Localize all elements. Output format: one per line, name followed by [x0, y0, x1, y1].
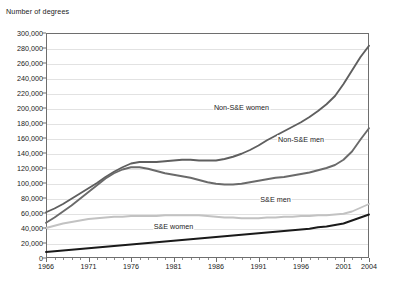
y-tick-label: 160,000	[17, 134, 43, 143]
x-tick-mark-minor	[165, 258, 166, 260]
y-tick-mark	[42, 228, 46, 229]
x-tick-mark-minor	[208, 258, 209, 260]
x-tick-label: 1971	[81, 262, 97, 271]
x-tick-label: 1966	[38, 262, 54, 271]
series-line-s-e-men	[46, 204, 369, 228]
x-tick-mark-minor	[199, 258, 200, 260]
x-tick-mark-minor	[267, 258, 268, 260]
y-tick-label: 260,000	[17, 59, 43, 68]
y-tick-label: 200,000	[17, 104, 43, 113]
x-tick-mark-minor	[55, 258, 56, 260]
y-tick-mark	[42, 243, 46, 244]
y-tick-label: 300,000	[17, 29, 43, 38]
x-tick-mark-minor	[250, 258, 251, 260]
x-tick-mark-minor	[352, 258, 353, 260]
x-tick-label: 1981	[166, 262, 182, 271]
x-tick-label: 1991	[251, 262, 267, 271]
y-tick-label: 80,000	[21, 194, 43, 203]
y-tick-mark	[42, 153, 46, 154]
series-label-s-e-men: S&E men	[259, 195, 291, 204]
x-tick-mark-minor	[335, 258, 336, 260]
x-tick-mark-minor	[225, 258, 226, 260]
x-tick-mark-minor	[114, 258, 115, 260]
series-line-s-e-women	[46, 215, 369, 253]
y-tick-label: 120,000	[17, 164, 43, 173]
y-tick-mark	[42, 93, 46, 94]
y-tick-label: 100,000	[17, 179, 43, 188]
x-tick-mark-minor	[191, 258, 192, 260]
x-tick-mark-minor	[80, 258, 81, 260]
x-tick-label: 1976	[123, 262, 139, 271]
y-tick-mark	[42, 123, 46, 124]
y-tick-label: 180,000	[17, 119, 43, 128]
degrees-line-chart: Number of degrees 300,000280,000260,0002…	[0, 0, 415, 284]
y-tick-label: 60,000	[21, 209, 43, 218]
x-tick-label: 1986	[208, 262, 224, 271]
series-label-s-e-women: S&E women	[153, 222, 195, 231]
x-tick-mark-minor	[233, 258, 234, 260]
x-tick-mark-minor	[140, 258, 141, 260]
y-tick-mark	[42, 48, 46, 49]
x-tick-mark-minor	[97, 258, 98, 260]
y-tick-mark	[42, 138, 46, 139]
series-layer	[46, 33, 369, 258]
x-tick-mark-minor	[284, 258, 285, 260]
x-tick-mark-minor	[123, 258, 124, 260]
x-tick-mark-minor	[318, 258, 319, 260]
y-tick-mark	[42, 183, 46, 184]
x-tick-mark-minor	[106, 258, 107, 260]
x-tick-mark-minor	[148, 258, 149, 260]
x-tick-mark-minor	[157, 258, 158, 260]
x-tick-label: 2001	[336, 262, 352, 271]
y-axis-title: Number of degrees	[6, 7, 69, 16]
x-tick-label: 2004	[361, 262, 377, 271]
x-tick-mark-minor	[72, 258, 73, 260]
x-tick-mark-minor	[276, 258, 277, 260]
y-tick-mark	[42, 78, 46, 79]
x-tick-mark-minor	[293, 258, 294, 260]
x-tick-mark-minor	[327, 258, 328, 260]
y-tick-label: 20,000	[21, 239, 43, 248]
y-tick-label: 140,000	[17, 149, 43, 158]
y-tick-label: 280,000	[17, 44, 43, 53]
y-tick-mark	[42, 63, 46, 64]
y-tick-label: 240,000	[17, 74, 43, 83]
y-tick-mark	[42, 108, 46, 109]
x-tick-mark-minor	[63, 258, 64, 260]
x-tick-mark-minor	[242, 258, 243, 260]
y-tick-label: 40,000	[21, 224, 43, 233]
y-tick-label: 220,000	[17, 89, 43, 98]
y-tick-mark	[42, 33, 46, 34]
series-label-non-s-e-women: Non-S&E women	[213, 103, 270, 112]
x-tick-label: 1996	[293, 262, 309, 271]
x-tick-mark-minor	[361, 258, 362, 260]
y-tick-mark	[42, 213, 46, 214]
x-tick-mark-minor	[182, 258, 183, 260]
x-tick-mark-minor	[310, 258, 311, 260]
y-tick-mark	[42, 168, 46, 169]
y-tick-mark	[42, 198, 46, 199]
series-label-non-s-e-men: Non-S&E men	[277, 135, 325, 144]
